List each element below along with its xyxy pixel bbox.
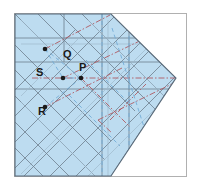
figure-container: QSPR [0, 0, 201, 192]
crease-pattern-figure: QSPR [0, 0, 201, 192]
point-label-s: S [36, 66, 43, 78]
point-label-q: Q [63, 48, 72, 60]
point-dot-p [79, 76, 84, 81]
point-label-p: P [79, 61, 86, 73]
point-label-r: R [38, 105, 46, 117]
point-dot-q [43, 47, 48, 52]
point-dot-s [61, 76, 66, 81]
